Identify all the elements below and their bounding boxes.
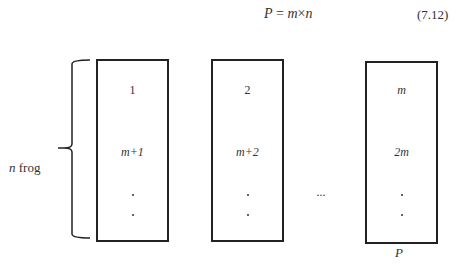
brace-label-text: frog [16,160,41,175]
box-2-middle-value: m+2 [213,145,282,160]
ellipsis: ··· [316,188,325,203]
box-3-top-value: m [367,83,436,98]
box-3-dot-2 [401,214,403,216]
frog-box-last: m 2m [365,61,438,244]
box-2-top-value: 2 [213,83,282,98]
box-1-dot-1 [132,194,134,196]
box-2-dot-1 [247,194,249,196]
frog-box-2: 2 m+2 [211,59,284,242]
box-1-dot-2 [132,214,134,216]
brace-label: n frog [9,160,40,176]
last-box-label: P [395,245,403,261]
box-3-dot-1 [401,194,403,196]
frog-box-1: 1 m+1 [96,59,169,242]
box-3-middle-value: 2m [367,145,436,160]
box-2-dot-2 [247,214,249,216]
box-1-middle-value: m+1 [98,145,167,160]
box-1-top-value: 1 [98,83,167,98]
